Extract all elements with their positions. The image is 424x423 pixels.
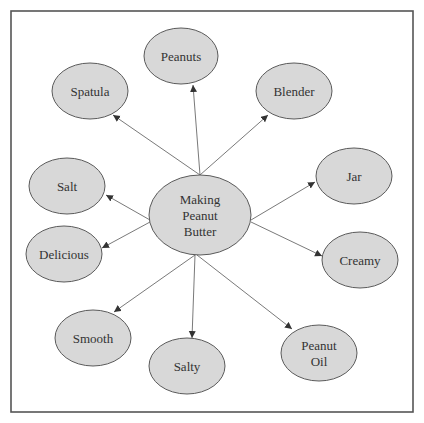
node-creamy: Creamy (322, 232, 398, 288)
node-label: Peanut (301, 338, 337, 353)
node-delicious: Delicious (26, 226, 102, 282)
node-label: Blender (273, 84, 315, 99)
node-jar: Jar (316, 148, 392, 204)
node-salty: Salty (149, 338, 225, 394)
node-label: Creamy (339, 253, 381, 268)
node-label: Delicious (39, 247, 89, 262)
node-label: Peanuts (161, 49, 201, 64)
node-label: Peanut (182, 208, 218, 223)
node-peanut-oil: PeanutOil (281, 325, 357, 381)
node-label: Jar (346, 169, 362, 184)
node-peanuts: Peanuts (144, 28, 218, 84)
node-label: Salt (57, 179, 78, 194)
node-label: Salty (174, 359, 201, 374)
node-label: Oil (311, 354, 328, 369)
concept-map: MakingPeanutButterPeanutsSpatulaBlenderS… (0, 0, 424, 423)
center-node: MakingPeanutButter (149, 175, 251, 255)
node-label: Spatula (71, 84, 110, 99)
node-salt: Salt (29, 158, 105, 214)
node-smooth: Smooth (55, 310, 131, 366)
node-label: Smooth (73, 331, 114, 346)
node-spatula: Spatula (52, 63, 128, 119)
node-blender: Blender (256, 63, 332, 119)
node-label: Butter (184, 224, 217, 239)
node-label: Making (180, 192, 221, 207)
